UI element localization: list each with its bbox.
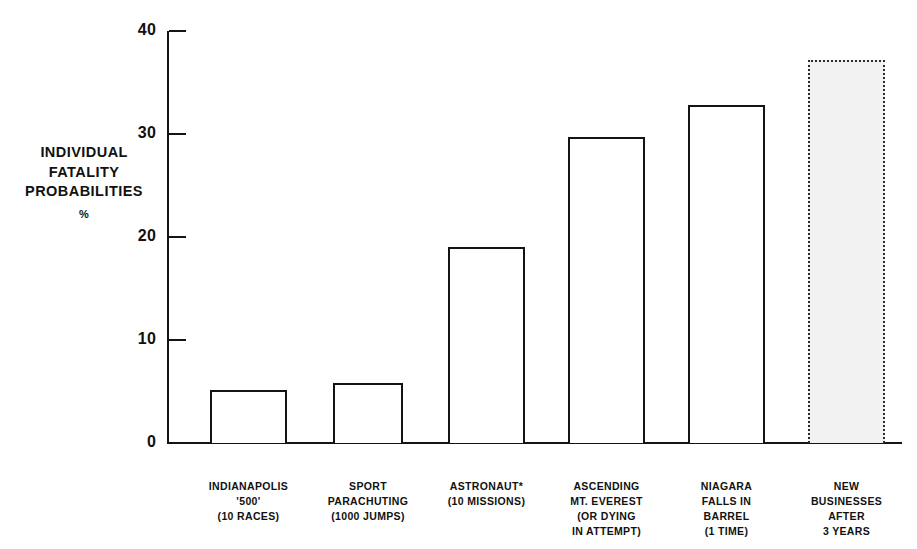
y-axis-tick-40 bbox=[169, 30, 186, 32]
bar-indianapolis-500 bbox=[210, 390, 287, 443]
y-axis-title-line-2: FATALITY bbox=[49, 164, 119, 180]
bar-chart: INDIVIDUAL FATALITY PROBABILITIES % 4030… bbox=[0, 0, 917, 549]
y-axis-tick-20 bbox=[169, 236, 186, 238]
y-axis-tick-10 bbox=[169, 339, 186, 341]
y-axis-tick-label-30: 30 bbox=[112, 124, 156, 142]
category-label-line: (1000 JUMPS) bbox=[293, 509, 443, 524]
category-label-line: 3 YEARS bbox=[772, 524, 917, 539]
bar-niagara-falls-in-barrel bbox=[688, 105, 765, 443]
bar-astronaut bbox=[448, 247, 525, 443]
category-label-line: AFTER bbox=[772, 509, 917, 524]
bar-new-businesses-after-3-years bbox=[808, 60, 885, 443]
y-axis-tick-label-10: 10 bbox=[112, 330, 156, 348]
y-axis-tick-label-40: 40 bbox=[112, 21, 156, 39]
y-axis-tick-label-20: 20 bbox=[112, 227, 156, 245]
y-axis-title: INDIVIDUAL FATALITY PROBABILITIES % bbox=[8, 143, 160, 224]
y-axis-tick-30 bbox=[169, 133, 186, 135]
category-label-line: BUSINESSES bbox=[772, 494, 917, 509]
category-label-line: NEW bbox=[772, 479, 917, 494]
y-axis-unit-label: % bbox=[8, 205, 160, 225]
y-axis-title-line-3: PROBABILITIES bbox=[25, 183, 143, 199]
y-axis-tick-0 bbox=[169, 442, 186, 444]
y-axis-tick-label-0: 0 bbox=[112, 433, 156, 451]
bar-ascending-mt-everest bbox=[568, 137, 645, 443]
y-axis-title-line-1: INDIVIDUAL bbox=[40, 144, 127, 160]
category-label-new-businesses-after-3-years: NEWBUSINESSESAFTER3 YEARS bbox=[772, 479, 917, 539]
bar-sport-parachuting bbox=[333, 383, 403, 443]
